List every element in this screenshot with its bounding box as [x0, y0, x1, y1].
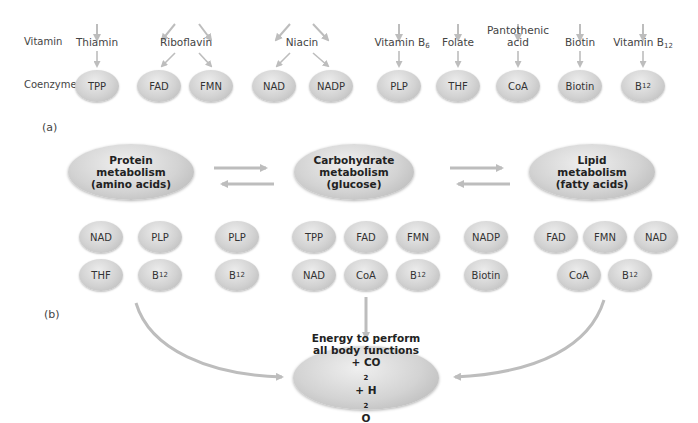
coenzyme-pill: CoA	[557, 259, 601, 291]
coenzyme-pill: FMN	[396, 221, 440, 253]
vitamin-niacin: Niacin	[286, 36, 319, 48]
vitamin-thiamin: Thiamin	[76, 36, 118, 48]
row-label-vitamin: Vitamin	[24, 36, 62, 47]
coenzyme-coa: CoA	[496, 70, 540, 102]
coenzyme-pill: PLP	[138, 221, 182, 253]
energy-output: Energy to perform all body functions + C…	[293, 346, 439, 410]
coenzyme-fad: FAD	[137, 70, 181, 102]
coenzyme-pill: FAD	[534, 221, 578, 253]
coenzyme-pill: THF	[79, 259, 123, 291]
coenzyme-pill: B12	[396, 259, 440, 291]
vitamin-b6: Vitamin B6	[374, 36, 429, 52]
vitamin-folate: Folate	[442, 36, 474, 48]
coenzyme-pill: TPP	[292, 221, 336, 253]
coenzyme-tpp: TPP	[75, 70, 119, 102]
coenzyme-pill: B12	[608, 259, 652, 291]
vitamin-pantothenic-acid: Pantothenicacid	[487, 24, 549, 48]
coenzyme-thf: THF	[436, 70, 480, 102]
coenzyme-pill: FMN	[583, 221, 627, 253]
coenzyme-pill: CoA	[344, 259, 388, 291]
coenzyme-pill: NADP	[464, 221, 508, 253]
coenzyme-pill: B12	[138, 259, 182, 291]
coenzyme-pill: PLP	[215, 221, 259, 253]
coenzyme-pill: NAD	[292, 259, 336, 291]
coenzyme-pill: B12	[215, 259, 259, 291]
vitamin-b12: Vitamin B12	[613, 36, 673, 52]
vitamin-riboflavin: Riboflavin	[160, 36, 212, 48]
vitamin-biotin: Biotin	[565, 36, 595, 48]
part-a-label: (a)	[42, 121, 57, 134]
process-lipid-metabolism: Lipidmetabolism(fatty acids)	[529, 144, 655, 200]
process-carbohydrate-metabolism: Carbohydratemetabolism(glucose)	[294, 144, 414, 200]
part-b-label: (b)	[44, 308, 60, 321]
coenzyme-nad: NAD	[252, 70, 296, 102]
coenzyme-pill: FAD	[344, 221, 388, 253]
coenzyme-plp: PLP	[377, 70, 421, 102]
coenzyme-b12: B12	[621, 70, 665, 102]
row-label-coenzyme: Coenzyme	[24, 79, 77, 90]
coenzyme-biotin: Biotin	[558, 70, 602, 102]
process-protein-metabolism: Proteinmetabolism(amino acids)	[68, 144, 194, 200]
coenzyme-pill: Biotin	[464, 259, 508, 291]
coenzyme-pill: NAD	[634, 221, 678, 253]
coenzyme-nadp: NADP	[309, 70, 353, 102]
coenzyme-pill: NAD	[79, 221, 123, 253]
coenzyme-fmn: FMN	[189, 70, 233, 102]
